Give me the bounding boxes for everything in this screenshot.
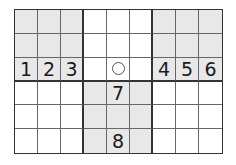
- grid-cell-r2c6[interactable]: [130, 34, 153, 58]
- grid-cell-r2c5[interactable]: [107, 34, 130, 58]
- grid-cell-r5c4[interactable]: [84, 105, 107, 129]
- grid-cell-r4c1[interactable]: [15, 82, 38, 106]
- grid-cell-r6c3[interactable]: [61, 129, 84, 153]
- grid-cell-r1c2[interactable]: [38, 10, 61, 34]
- grid-cell-r1c1[interactable]: [15, 10, 38, 34]
- grid-cell-r6c9[interactable]: [199, 129, 222, 153]
- grid-cell-r6c7[interactable]: [153, 129, 176, 153]
- grid-cell-r5c1[interactable]: [15, 105, 38, 129]
- cell-value: 8: [112, 130, 124, 152]
- grid-cell-r6c8[interactable]: [176, 129, 199, 153]
- grid-cell-r3c1[interactable]: 1: [15, 58, 38, 82]
- cell-value: 7: [112, 82, 124, 104]
- grid-cell-r6c4[interactable]: [84, 129, 107, 153]
- grid-cell-r5c3[interactable]: [61, 105, 84, 129]
- cell-value: 1: [20, 58, 32, 80]
- cell-value: 4: [158, 58, 170, 80]
- grid-cell-r4c3[interactable]: [61, 82, 84, 106]
- grid-cell-r2c8[interactable]: [176, 34, 199, 58]
- grid-cell-r5c6[interactable]: [130, 105, 153, 129]
- grid-cell-r6c2[interactable]: [38, 129, 61, 153]
- grid-cell-r1c5[interactable]: [107, 10, 130, 34]
- grid-cell-r2c1[interactable]: [15, 34, 38, 58]
- cell-value: 2: [43, 58, 55, 80]
- grid-cell-r5c9[interactable]: [199, 105, 222, 129]
- grid-cell-r3c6[interactable]: [130, 58, 153, 82]
- grid-cell-r1c8[interactable]: [176, 10, 199, 34]
- cell-value: 3: [65, 58, 77, 80]
- grid-cell-r4c7[interactable]: [153, 82, 176, 106]
- sudoku-grid: 12345678: [14, 9, 223, 154]
- grid-cell-r4c2[interactable]: [38, 82, 61, 106]
- grid-cell-r6c6[interactable]: [130, 129, 153, 153]
- grid-cell-r1c6[interactable]: [130, 10, 153, 34]
- grid-cell-r4c5[interactable]: 7: [107, 82, 130, 106]
- grid-cell-r4c6[interactable]: [130, 82, 153, 106]
- grid-cell-r5c8[interactable]: [176, 105, 199, 129]
- grid-cell-r1c3[interactable]: [61, 10, 84, 34]
- grid-cell-r3c8[interactable]: 5: [176, 58, 199, 82]
- grid-cell-r2c2[interactable]: [38, 34, 61, 58]
- cell-value: 5: [181, 58, 193, 80]
- grid-cell-r2c9[interactable]: [199, 34, 222, 58]
- grid-cell-r4c9[interactable]: [199, 82, 222, 106]
- grid-cell-r1c7[interactable]: [153, 10, 176, 34]
- circle-icon: [112, 62, 125, 75]
- grid-cell-r3c9[interactable]: 6: [199, 58, 222, 82]
- grid-cell-r1c4[interactable]: [84, 10, 107, 34]
- cell-value: 6: [204, 58, 216, 80]
- grid-cell-r3c5[interactable]: [107, 58, 130, 82]
- grid-cell-r2c7[interactable]: [153, 34, 176, 58]
- grid-cell-r4c4[interactable]: [84, 82, 107, 106]
- grid-cell-r3c4[interactable]: [84, 58, 107, 82]
- grid-cell-r6c5[interactable]: 8: [107, 129, 130, 153]
- grid-cell-r3c7[interactable]: 4: [153, 58, 176, 82]
- grid-cell-r5c5[interactable]: [107, 105, 130, 129]
- grid-cell-r1c9[interactable]: [199, 10, 222, 34]
- grid-cell-r5c7[interactable]: [153, 105, 176, 129]
- grid-cell-r3c3[interactable]: 3: [61, 58, 84, 82]
- grid-cell-r5c2[interactable]: [38, 105, 61, 129]
- grid-cell-r2c3[interactable]: [61, 34, 84, 58]
- grid-cell-r2c4[interactable]: [84, 34, 107, 58]
- grid-cell-r4c8[interactable]: [176, 82, 199, 106]
- grid-cell-r6c1[interactable]: [15, 129, 38, 153]
- grid-cell-r3c2[interactable]: 2: [38, 58, 61, 82]
